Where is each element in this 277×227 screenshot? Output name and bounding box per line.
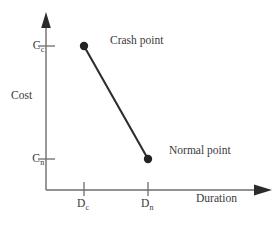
y-tick-label-cn-subscript: n [40,158,44,167]
cost-duration-crash-diagram: Cc Cn Cost Dc Dn Duration Crash point No… [0,0,277,227]
y-tick-label-cc-subscript: c [41,45,45,54]
normal-point-marker [144,155,152,163]
x-tick-label-dn-subscript: n [150,203,154,212]
y-tick-label-cc: Cc [33,40,44,52]
y-axis-arrowhead [41,12,51,28]
crash-normal-line [84,46,148,159]
x-tick-label-dn: Dn [141,198,153,210]
x-axis-arrowhead [254,185,272,196]
normal-point-label: Normal point [169,145,231,157]
y-axis-title: Cost [11,90,32,102]
x-tick-label-dc: Dc [77,198,89,210]
x-axis-title: Duration [196,193,237,205]
crash-point-label: Crash point [110,35,163,47]
crash-point-marker [80,42,88,50]
x-tick-label-dc-subscript: c [86,203,90,212]
y-tick-label-cn: Cn [32,153,44,165]
